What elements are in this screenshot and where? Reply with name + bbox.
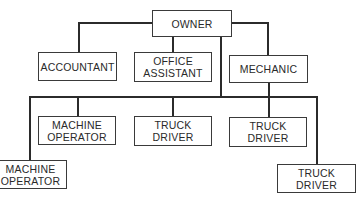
node-label: MACHINE — [1, 163, 61, 175]
connector-mo2-drop — [29, 96, 31, 161]
node-label: ACCOUNTANT — [40, 61, 114, 73]
node-label: DRIVER — [296, 179, 337, 191]
node-machine-operator-2: MACHINEOPERATOR — [0, 160, 67, 189]
connector-td1-drop — [172, 96, 174, 117]
connector-office-drop — [172, 36, 174, 53]
connector-mo1-drop — [77, 96, 79, 117]
node-label: OPERATOR — [1, 175, 61, 187]
node-label: TRUCK — [296, 167, 337, 179]
node-truck-driver-2: TRUCKDRIVER — [229, 117, 307, 147]
node-label: ASSISTANT — [143, 67, 202, 79]
node-label: TRUCK — [248, 120, 289, 132]
connector-accountant-drop — [78, 22, 80, 53]
connector-td3-drop — [316, 96, 318, 165]
node-label: OWNER — [171, 18, 212, 30]
node-label: DRIVER — [248, 132, 289, 144]
node-truck-driver-1: TRUCKDRIVER — [134, 116, 212, 146]
connector-mechanic-trunk — [268, 82, 270, 118]
node-machine-operator-1: MACHINEOPERATOR — [38, 116, 116, 145]
node-owner: OWNER — [152, 10, 232, 37]
connector-mechanic-drop — [267, 22, 269, 56]
connector-owner-left — [78, 22, 153, 24]
node-label: OPERATOR — [47, 131, 107, 143]
node-mechanic: MECHANIC — [229, 55, 308, 83]
node-label: OFFICE — [143, 55, 202, 67]
node-label: TRUCK — [153, 119, 194, 131]
connector-owner-trunk — [220, 36, 222, 98]
node-label: MACHINE — [47, 119, 107, 131]
node-label: MECHANIC — [240, 63, 298, 75]
node-office-assistant: OFFICEASSISTANT — [134, 52, 212, 82]
node-label: DRIVER — [153, 131, 194, 143]
node-truck-driver-3: TRUCKDRIVER — [277, 164, 356, 193]
connector-owner-right — [230, 22, 269, 24]
node-accountant: ACCOUNTANT — [38, 52, 117, 81]
